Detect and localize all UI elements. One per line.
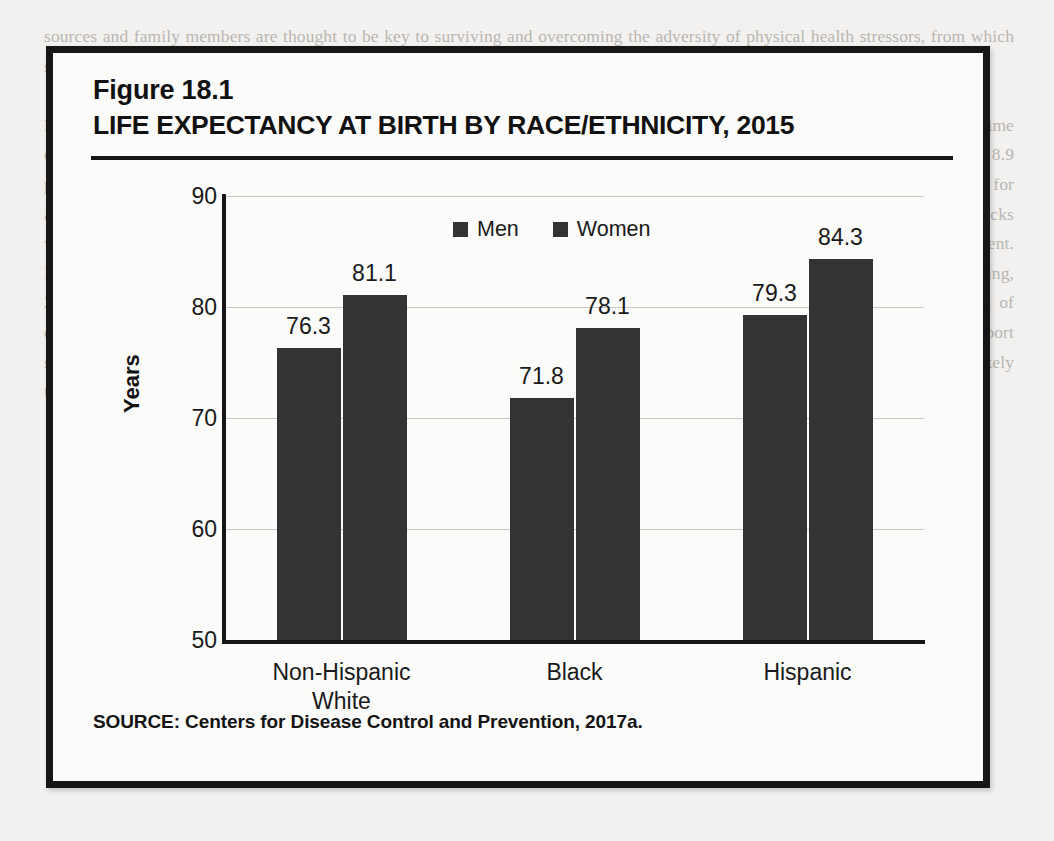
bar-value-label: 84.3: [818, 224, 863, 251]
chart-plot: 5060708090 Years MenWomen Non-Hispanic W…: [53, 53, 983, 781]
figure-container: Figure 18.1 LIFE EXPECTANCY AT BIRTH BY …: [46, 46, 990, 788]
bar-value-label: 79.3: [752, 280, 797, 307]
y-tick-label: 50: [171, 627, 217, 654]
y-axis-ticks: 5060708090: [161, 53, 217, 781]
bar-value-label: 76.3: [286, 313, 331, 340]
bar-black-men[interactable]: [510, 398, 574, 640]
bar-non-hispanic-white-men[interactable]: [277, 348, 341, 640]
bar-black-women[interactable]: [576, 328, 640, 640]
y-tick-label: 60: [171, 516, 217, 543]
figure-source: SOURCE: Centers for Disease Control and …: [93, 711, 643, 733]
y-tick-label: 80: [171, 294, 217, 321]
bar-value-label: 81.1: [352, 260, 397, 287]
bar-hispanic-men[interactable]: [743, 315, 807, 640]
bar-hispanic-women[interactable]: [809, 259, 873, 640]
y-axis-label: Years: [119, 354, 145, 413]
figure-inner: Figure 18.1 LIFE EXPECTANCY AT BIRTH BY …: [53, 53, 983, 781]
bar-non-hispanic-white-women[interactable]: [343, 295, 407, 640]
bar-value-label: 71.8: [519, 363, 564, 390]
category-label: Non-Hispanic White: [272, 658, 410, 716]
y-tick-label: 90: [171, 183, 217, 210]
bar-value-label: 78.1: [585, 293, 630, 320]
y-tick-label: 70: [171, 405, 217, 432]
category-label: Hispanic: [763, 658, 851, 687]
bars-area: [225, 196, 924, 640]
category-label: Black: [546, 658, 602, 687]
x-axis-line: [222, 640, 925, 644]
